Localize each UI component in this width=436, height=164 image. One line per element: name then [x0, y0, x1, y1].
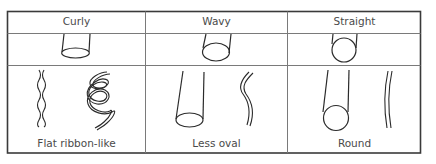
straight-hair-shaft-icon — [323, 70, 349, 131]
straight-strand-icon — [385, 71, 392, 128]
wavy-hair-shaft-icon — [176, 71, 204, 127]
curly-coil-strand-icon — [87, 72, 114, 130]
wavy-cross-section-icon — [203, 34, 232, 61]
caption-straight: Round — [288, 137, 421, 149]
header-curly: Curly — [8, 15, 145, 27]
wavy-strand-icon — [241, 72, 253, 126]
curly-cross-section-icon — [62, 34, 90, 58]
caption-wavy: Less oval — [146, 137, 287, 149]
header-wavy: Wavy — [146, 15, 287, 27]
table-grid — [8, 12, 421, 154]
curly-ribbon-strand-icon — [38, 70, 46, 127]
hair-type-diagram: Curly Wavy Straight Flat ribbon-like Les… — [0, 0, 436, 164]
straight-cross-section-icon — [332, 34, 357, 62]
header-straight: Straight — [288, 15, 421, 27]
caption-curly: Flat ribbon-like — [8, 137, 145, 149]
